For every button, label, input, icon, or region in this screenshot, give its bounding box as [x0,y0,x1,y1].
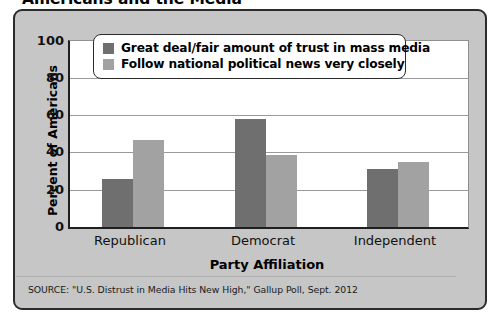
legend-swatch-icon [103,59,114,70]
legend-item-trust: Great deal/fair amount of trust in mass … [103,40,396,56]
chart-legend: Great deal/fair amount of trust in mass … [93,34,406,79]
x-axis-label: Party Affiliation [68,257,466,272]
legend-label: Follow national political news very clos… [121,57,404,71]
gridline [70,152,468,153]
y-tick-label: 60 [18,108,64,121]
y-tick-label: 100 [18,34,64,47]
y-tick-label: 0 [18,220,64,233]
bar-republican-trust [102,179,133,227]
y-tick-label: 80 [18,71,64,84]
chart-figure: Americans and the Media Percent of Ameri… [0,0,503,319]
bar-democrat-trust [235,119,266,227]
bar-independent-trust [367,169,398,227]
legend-item-follow: Follow national political news very clos… [103,56,396,72]
bar-independent-follow [398,162,429,227]
bar-democrat-follow [266,155,297,228]
gridline [70,115,468,116]
source-divider [16,276,456,277]
bar-republican-follow [133,140,164,227]
x-tick-label-independent: Independent [300,233,490,248]
legend-label: Great deal/fair amount of trust in mass … [121,41,430,55]
source-note: SOURCE: "U.S. Distrust in Media Hits New… [28,284,358,295]
y-tick-label: 20 [18,183,64,196]
y-axis-ticks: 100 80 60 40 20 0 [14,0,64,319]
chart-title-clip: Americans and the Media [0,0,503,9]
legend-swatch-icon [103,43,114,54]
y-tick-label: 40 [18,145,64,158]
